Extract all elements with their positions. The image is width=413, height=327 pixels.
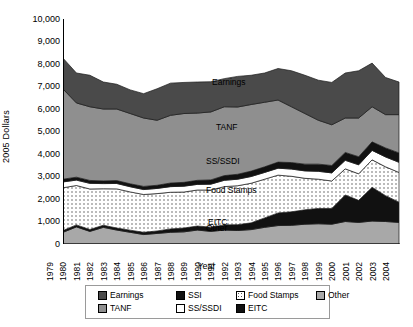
legend-swatch-icon bbox=[236, 304, 245, 313]
legend-swatch-icon bbox=[98, 291, 107, 300]
legend-label: EITC bbox=[248, 304, 267, 313]
legend-label: Earnings bbox=[110, 291, 144, 300]
y-tick-label: 3,000 bbox=[12, 172, 60, 181]
legend-item-food-stamps[interactable]: Food Stamps bbox=[236, 291, 299, 300]
legend-item-ss-ssdi[interactable]: SS/SSDI bbox=[176, 304, 222, 313]
legend-item-eitc[interactable]: EITC bbox=[236, 304, 267, 313]
x-axis-title: Year bbox=[0, 261, 413, 271]
legend-swatch-icon bbox=[236, 291, 245, 300]
chart-legend: EarningsSSIFood StampsOtherTANFSS/SSDIEI… bbox=[85, 285, 330, 319]
legend-label: Food Stamps bbox=[248, 291, 299, 300]
area-label-earnings: Earnings bbox=[212, 78, 246, 87]
legend-label: SS/SSDI bbox=[188, 304, 222, 313]
area-label-other: Other bbox=[206, 224, 227, 233]
y-tick-label: 5,000 bbox=[12, 127, 60, 136]
legend-row: TANFSS/SSDIEITC bbox=[92, 302, 325, 315]
legend-row: EarningsSSIFood StampsOther bbox=[92, 289, 325, 302]
legend-item-tanf[interactable]: TANF bbox=[98, 304, 132, 313]
y-tick-label: 1,000 bbox=[12, 217, 60, 226]
chart-figure: 2005 Dollars 10,0009,0008,0007,0006,0005… bbox=[0, 0, 413, 327]
area-label-ss-ssdi: SS/SSDI bbox=[206, 157, 240, 166]
area-label-tanf: TANF bbox=[216, 123, 238, 132]
y-tick-label: 6,000 bbox=[12, 105, 60, 114]
legend-item-earnings[interactable]: Earnings bbox=[98, 291, 144, 300]
legend-item-other[interactable]: Other bbox=[316, 291, 349, 300]
legend-swatch-icon bbox=[176, 291, 185, 300]
y-tick-label: 8,000 bbox=[12, 60, 60, 69]
legend-label: TANF bbox=[110, 304, 132, 313]
y-tick-label: 2,000 bbox=[12, 195, 60, 204]
y-tick-label: 0 bbox=[12, 240, 60, 249]
y-tick-label: 4,000 bbox=[12, 150, 60, 159]
legend-swatch-icon bbox=[316, 291, 325, 300]
y-tick-label: 10,000 bbox=[12, 15, 60, 24]
legend-label: Other bbox=[328, 291, 349, 300]
area-label-food-stamps: Food Stamps bbox=[206, 186, 257, 195]
legend-swatch-icon bbox=[98, 304, 107, 313]
y-tick-label: 9,000 bbox=[12, 37, 60, 46]
legend-swatch-icon bbox=[176, 304, 185, 313]
legend-item-ssi[interactable]: SSI bbox=[176, 291, 202, 300]
y-tick-label: 7,000 bbox=[12, 82, 60, 91]
legend-label: SSI bbox=[188, 291, 202, 300]
